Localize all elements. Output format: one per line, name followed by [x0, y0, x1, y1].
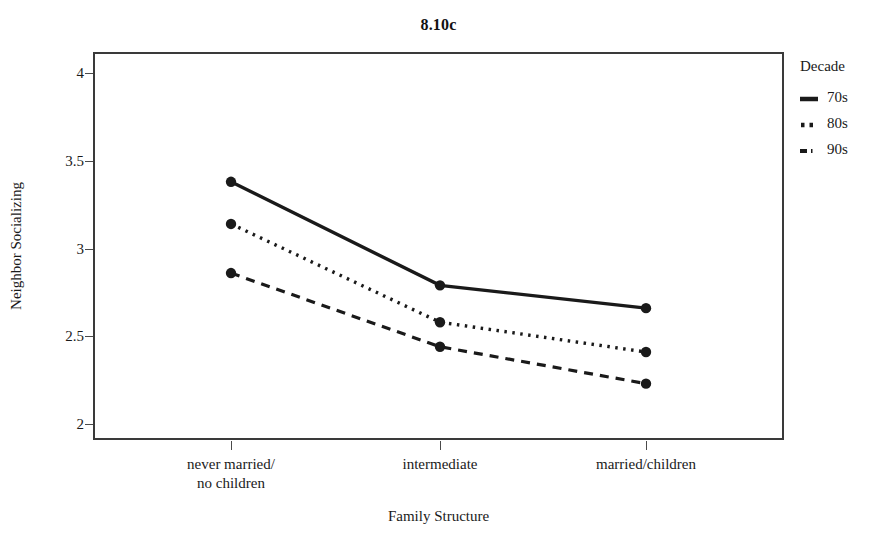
legend-item-90s[interactable]: 90s — [800, 137, 878, 161]
figure-container: 8.10c 22.533.54 Neighbor Socializing nev… — [0, 0, 880, 551]
legend-item-80s[interactable]: 80s — [800, 111, 878, 135]
solid-line-swatch — [800, 91, 824, 103]
y-axis-tick-label: 2 — [77, 416, 85, 433]
y-axis-tick-mark — [85, 249, 93, 250]
data-point-marker — [641, 303, 651, 313]
y-axis-tick-mark — [85, 73, 93, 74]
legend-rows: 70s80s90s — [800, 85, 878, 161]
y-axis-tick-mark — [85, 161, 93, 162]
y-axis-tick-label: 4 — [77, 65, 85, 82]
y-axis-tick-label: 3.5 — [65, 152, 84, 169]
data-point-marker — [226, 268, 236, 278]
y-axis-tick-label: 2.5 — [65, 328, 84, 345]
data-point-marker — [226, 219, 236, 229]
data-point-marker — [226, 177, 236, 187]
plot-area — [93, 52, 784, 440]
data-point-marker — [641, 378, 651, 388]
y-axis-tick-mark — [85, 336, 93, 337]
legend-title: Decade — [800, 58, 878, 75]
dashed-line-swatch — [800, 143, 824, 155]
data-point-marker — [435, 280, 445, 290]
data-point-marker — [435, 317, 445, 327]
y-axis-tick-mark — [85, 424, 93, 425]
chart-title: 8.10c — [93, 16, 784, 34]
x-axis-tick-label: never married/ no children — [187, 455, 275, 493]
legend-item-label: 70s — [827, 89, 848, 106]
y-axis-title: Neighbor Socializing — [8, 182, 25, 310]
dotted-line-swatch — [800, 117, 824, 129]
legend: Decade 70s80s90s — [800, 58, 878, 163]
data-point-marker — [435, 342, 445, 352]
legend-item-label: 90s — [827, 141, 848, 158]
x-axis-tick-label: married/children — [596, 455, 696, 474]
x-axis-title: Family Structure — [93, 508, 784, 525]
x-axis-tick-mark — [231, 441, 232, 450]
x-axis-tick-label: intermediate — [403, 455, 478, 474]
x-axis-tick-mark — [440, 441, 441, 450]
y-axis-tick-label: 3 — [77, 240, 85, 257]
x-axis-tick-mark — [646, 441, 647, 450]
data-point-marker — [641, 347, 651, 357]
legend-item-label: 80s — [827, 115, 848, 132]
legend-item-70s[interactable]: 70s — [800, 85, 878, 109]
